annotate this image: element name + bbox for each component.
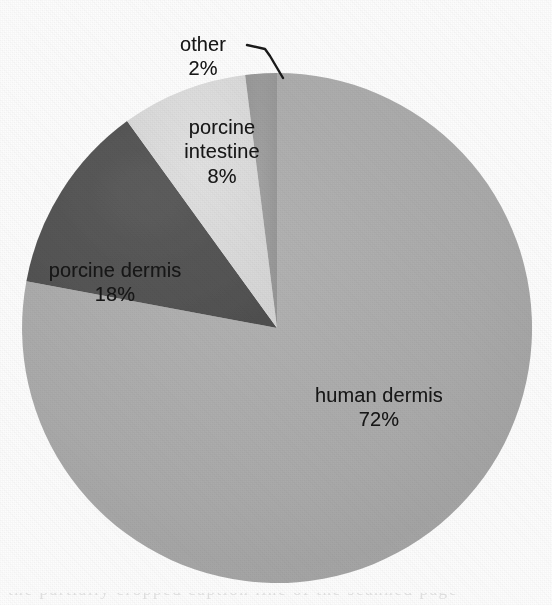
pie-chart-figure: other 2% porcine intestine 8% porcine de… bbox=[0, 0, 552, 605]
pie-label-other: other 2% bbox=[151, 32, 255, 81]
pie-label-porcine-dermis: porcine dermis 18% bbox=[17, 258, 213, 307]
pie-label-porcine-intestine: porcine intestine 8% bbox=[160, 115, 284, 188]
pie-label-human-dermis: human dermis 72% bbox=[291, 383, 467, 432]
